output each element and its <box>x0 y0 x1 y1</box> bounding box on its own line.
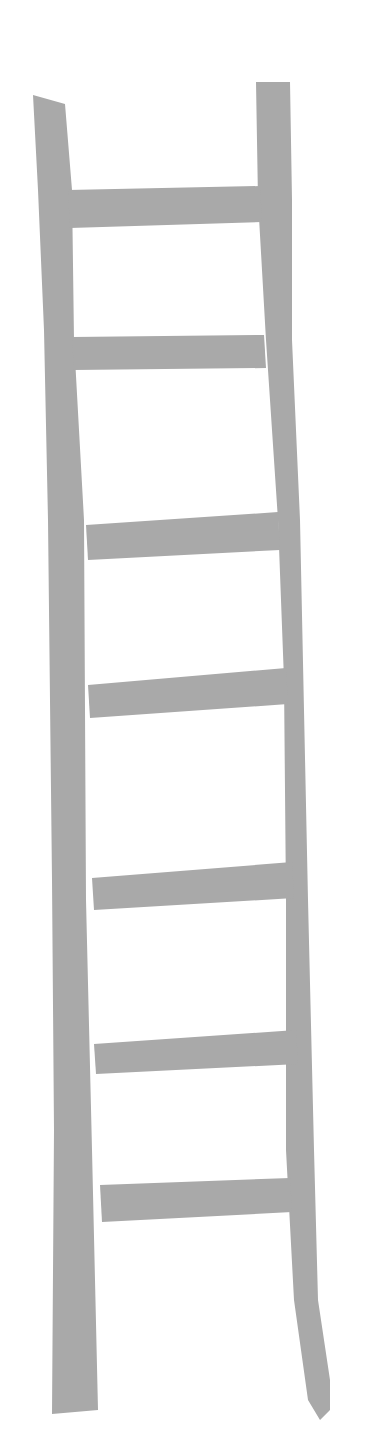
ladder-icon <box>0 0 371 1453</box>
